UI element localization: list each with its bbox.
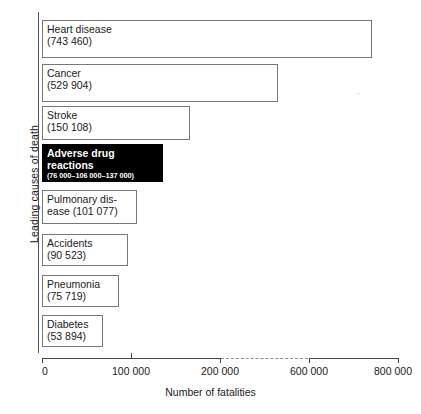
- x-axis: 0 100 000 200 000 600 000 800 000: [0, 352, 421, 382]
- bar-accidents[interactable]: Accidents (90 523): [42, 234, 128, 266]
- bar-label: Stroke: [47, 110, 189, 122]
- x-ticklabel-100000: 100 000: [112, 365, 150, 377]
- x-axis-break-dashed: [221, 358, 308, 359]
- bar-label: Diabetes: [47, 319, 102, 331]
- bar-label: Pulmonary dis- ease (101 077): [47, 194, 136, 217]
- bar-pneumonia[interactable]: Pneumonia (75 719): [42, 275, 119, 307]
- x-ticklabel-0: 0: [42, 365, 48, 377]
- bar-label: Accidents: [47, 238, 127, 250]
- bar-series: Heart disease (743 460) Cancer (529 904)…: [0, 0, 421, 352]
- bar-value: (529 904): [47, 80, 277, 92]
- bar-pulmonary-disease[interactable]: Pulmonary dis- ease (101 077): [42, 190, 137, 224]
- x-tick-200000: [220, 358, 221, 363]
- bar-value-range: (76 000–106 000–137 000): [47, 171, 162, 180]
- x-tick-600000: [309, 358, 310, 363]
- bar-value: (75 719): [47, 291, 118, 303]
- x-tick-0: [42, 358, 43, 363]
- x-axis-segment-low: [42, 358, 220, 359]
- bar-chart-figure: Leading causes of death Heart disease (7…: [0, 0, 421, 414]
- bar-adverse-drug-reactions[interactable]: Adverse drug reactions (76 000–106 000–1…: [42, 144, 163, 182]
- bar-value: (743 460): [47, 36, 371, 48]
- x-axis-title: Number of fatalities: [0, 386, 421, 398]
- bar-stroke[interactable]: Stroke (150 108): [42, 106, 190, 140]
- bar-label: Cancer: [47, 68, 277, 80]
- bar-value: (53 894): [47, 331, 102, 343]
- bar-diabetes[interactable]: Diabetes (53 894): [42, 315, 103, 347]
- bar-value: (150 108): [47, 122, 189, 134]
- x-ticklabel-800000: 800 000: [374, 365, 412, 377]
- bar-cancer[interactable]: Cancer (529 904): [42, 64, 278, 102]
- bar-value: (90 523): [47, 250, 127, 262]
- x-ticklabel-200000: 200 000: [201, 365, 239, 377]
- bar-heart-disease[interactable]: Heart disease (743 460): [42, 20, 372, 58]
- x-ticklabel-600000: 600 000: [290, 365, 328, 377]
- bar-label: Pneumonia: [47, 279, 118, 291]
- bar-label: Adverse drug reactions: [47, 148, 162, 171]
- x-tick-800000: [398, 358, 399, 363]
- x-tick-100000: [131, 353, 132, 358]
- bar-label: Heart disease: [47, 24, 371, 36]
- stray-speck: [358, 93, 359, 94]
- x-axis-segment-high: [309, 358, 399, 359]
